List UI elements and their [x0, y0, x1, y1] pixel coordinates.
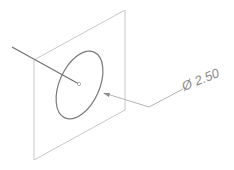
cad-diagram: Ø 2.50 — [0, 0, 234, 170]
axis-line — [12, 47, 79, 84]
center-point[interactable] — [77, 82, 80, 85]
leader-line — [104, 89, 183, 107]
dimension-label[interactable]: Ø 2.50 — [179, 65, 222, 94]
leader-arrowhead-icon — [103, 93, 110, 97]
